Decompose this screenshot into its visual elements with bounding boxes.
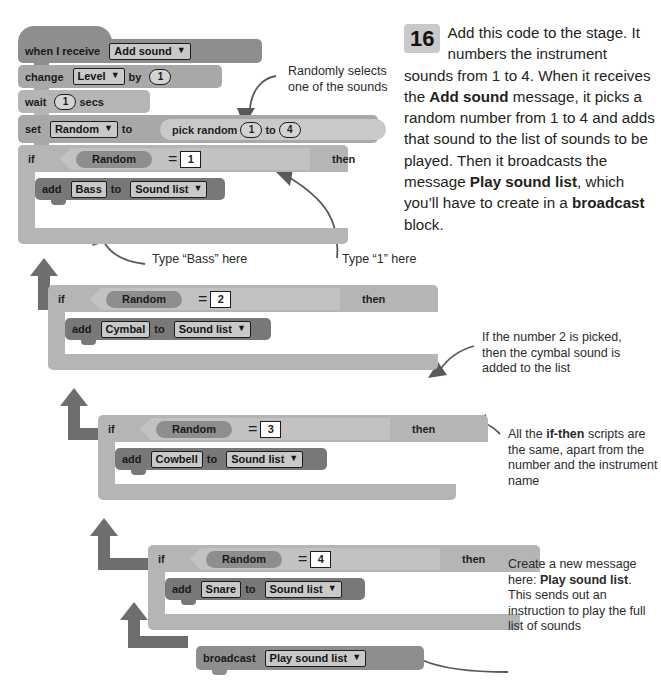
chevron-down-icon: ▼ <box>111 71 120 80</box>
list-dropdown-value: Sound list <box>135 184 188 195</box>
equals-operator-2[interactable]: Random = 2 <box>90 288 340 310</box>
if-footer-3 <box>98 484 456 500</box>
message-dropdown-add-sound[interactable]: Add sound ▼ <box>109 43 190 60</box>
add-block-notch-3 <box>131 470 146 475</box>
pick-random-to-label: to <box>265 124 275 136</box>
if-condition-1[interactable]: Random = 1 then <box>56 148 355 170</box>
chevron-down-icon: ▼ <box>193 184 202 193</box>
to-label-4: to <box>245 583 255 595</box>
if-label: if <box>108 423 115 435</box>
if-footer-2 <box>48 354 438 370</box>
secs-label: secs <box>79 96 103 108</box>
equals-value-input-1[interactable]: 1 <box>180 151 201 168</box>
list-dropdown-value: Sound list <box>270 584 323 595</box>
variable-dropdown-value: Random <box>55 124 99 135</box>
instrument-input-bass[interactable]: Bass <box>71 181 107 198</box>
to-label-3: to <box>207 453 217 465</box>
chevron-down-icon: ▼ <box>289 454 298 463</box>
list-dropdown-value: Sound list <box>231 454 284 465</box>
variable-dropdown-random[interactable]: Random ▼ <box>50 121 118 138</box>
broadcast-message-dropdown[interactable]: Play sound list ▼ <box>265 650 367 667</box>
note-if-then: All the if-then scripts are the same, ap… <box>508 427 658 489</box>
if-block-notch-2 <box>64 354 79 359</box>
block-change-variable[interactable]: change Level ▼ by 1 <box>18 65 222 88</box>
instrument-value: Cowbell <box>156 454 198 465</box>
equals-operator-3[interactable]: Random = 3 <box>140 418 390 440</box>
pick-random-from-input[interactable]: 1 <box>240 122 262 138</box>
arrow-type-one <box>290 178 337 258</box>
step-paragraph-text: Add this code to the stage. It numbers t… <box>404 24 655 233</box>
if-condition-3[interactable]: Random = 3 then <box>136 418 435 440</box>
then-label-1: then <box>332 153 355 165</box>
instrument-value: Cymbal <box>106 324 146 335</box>
instrument-value: Snare <box>206 584 237 595</box>
arrow-random-select <box>250 76 276 108</box>
list-dropdown-2[interactable]: Sound list ▼ <box>174 321 251 338</box>
instrument-input-cowbell[interactable]: Cowbell <box>151 451 203 468</box>
if-left-arm-3 <box>98 442 115 484</box>
add-label-4: add <box>172 583 192 595</box>
variable-reporter-random-1[interactable]: Random <box>76 151 152 168</box>
add-label-3: add <box>122 453 142 465</box>
note-type-one: Type “1” here <box>342 252 416 268</box>
block-add-to-list-2[interactable]: add Cymbal to Sound list ▼ <box>65 318 271 340</box>
list-dropdown-3[interactable]: Sound list ▼ <box>226 451 303 468</box>
list-dropdown-4[interactable]: Sound list ▼ <box>265 581 342 598</box>
add-block-notch-2 <box>81 340 96 345</box>
equals-value-input-3[interactable]: 3 <box>260 421 281 438</box>
if-left-arm-2 <box>48 312 65 354</box>
variable-reporter-random-3[interactable]: Random <box>156 421 232 438</box>
add-block-notch-1 <box>51 200 66 205</box>
chevron-down-icon: ▼ <box>177 46 186 55</box>
block-when-i-receive[interactable]: when I receive Add sound ▼ <box>18 39 262 63</box>
note-broadcast: Create a new message here: Play sound li… <box>508 557 658 635</box>
equals-sign-1: = <box>168 150 177 168</box>
variable-reporter-random-2[interactable]: Random <box>106 291 182 308</box>
change-label: change <box>25 71 64 83</box>
add-block-notch-4 <box>181 600 196 605</box>
then-label-4: then <box>462 553 485 565</box>
step-number-badge: 16 <box>404 24 440 53</box>
to-label: to <box>122 123 132 135</box>
equals-operator-4[interactable]: Random = 4 <box>190 548 440 570</box>
variable-dropdown-value: Level <box>78 71 106 82</box>
step-paragraph: 16 Add this code to the stage. It number… <box>404 22 656 235</box>
change-amount-input[interactable]: 1 <box>149 69 171 85</box>
scratch-script-illustration: when I receive Add sound ▼ change Level … <box>0 0 661 680</box>
when-i-receive-label: when I receive <box>25 45 100 57</box>
block-broadcast[interactable]: broadcast Play sound list ▼ <box>196 646 424 670</box>
if-condition-4[interactable]: Random = 4 then <box>186 548 485 570</box>
wait-seconds-input[interactable]: 1 <box>54 94 76 110</box>
note-type-bass: Type “Bass” here <box>152 252 247 268</box>
add-label-1: add <box>42 183 62 195</box>
broadcast-message-value: Play sound list <box>270 653 348 664</box>
wait-label: wait <box>25 96 46 108</box>
block-add-to-list-1[interactable]: add Bass to Sound list ▼ <box>35 178 225 200</box>
arrow-cymbal-note <box>440 346 474 370</box>
variable-reporter-random-4[interactable]: Random <box>206 551 282 568</box>
if-block-notch-3 <box>114 484 129 489</box>
pick-random-label: pick random <box>172 124 237 136</box>
if-label: if <box>28 153 35 165</box>
pick-random-to-input[interactable]: 4 <box>279 122 301 138</box>
then-label-3: then <box>412 423 435 435</box>
if-block-notch-1 <box>34 228 49 233</box>
instrument-input-cymbal[interactable]: Cymbal <box>101 321 151 338</box>
arrow-type-bass <box>104 242 145 264</box>
equals-value-input-4[interactable]: 4 <box>310 551 331 568</box>
if-left-arm-4 <box>148 572 165 614</box>
broadcast-block-notch <box>212 670 227 675</box>
block-add-to-list-3[interactable]: add Cowbell to Sound list ▼ <box>115 448 327 470</box>
instrument-value: Bass <box>76 184 102 195</box>
block-pick-random[interactable]: pick random 1 to 4 <box>160 119 386 140</box>
block-wait[interactable]: wait 1 secs <box>18 90 150 113</box>
variable-dropdown-level[interactable]: Level ▼ <box>73 68 125 85</box>
equals-operator-1[interactable]: Random = 1 <box>60 148 310 170</box>
list-dropdown-1[interactable]: Sound list ▼ <box>130 181 207 198</box>
if-condition-2[interactable]: Random = 2 then <box>86 288 385 310</box>
if-left-arm-1 <box>18 172 35 228</box>
block-add-to-list-4[interactable]: add Snare to Sound list ▼ <box>165 578 365 600</box>
chevron-down-icon: ▼ <box>237 324 246 333</box>
equals-value-input-2[interactable]: 2 <box>210 291 231 308</box>
instrument-input-snare[interactable]: Snare <box>201 581 242 598</box>
